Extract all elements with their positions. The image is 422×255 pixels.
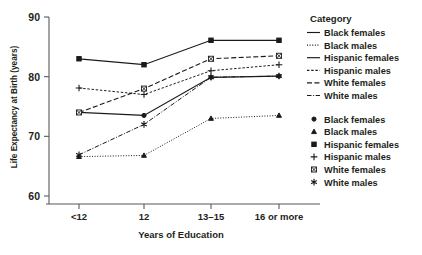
legend-line-label: White males [324,91,378,101]
marker-square [77,57,81,61]
series-path [79,40,279,64]
marker-square [277,38,281,42]
x-axis-title: Years of Education [138,229,224,240]
plus-marker [76,85,83,92]
marker-triangle [277,113,282,117]
plus-marker [311,154,318,161]
x-tick-label: 13–15 [198,211,225,222]
legend-line-label: Black females [324,28,385,38]
x-tick-label: 12 [139,211,150,222]
legend-marker-label: Black females [324,115,385,125]
marker-circle [312,117,316,121]
series-white-males [76,73,282,158]
triangle-marker [277,113,282,117]
y-tick-label: 70 [28,130,40,142]
plus-marker [276,61,283,68]
marker-plus [208,67,215,74]
series-path [79,76,279,155]
circle-marker [142,113,146,117]
marker-boxed-x [276,53,281,58]
y-tick-label: 80 [28,71,40,83]
marker-square [209,38,213,42]
marker-plus [311,154,318,161]
marker-triangle [209,116,214,120]
square-marker [277,38,281,42]
square-marker [142,63,146,67]
series-group [76,38,283,158]
legend-marker-label: Black males [324,127,377,137]
marker-boxed-x [76,110,81,115]
line-chart: 90807060<121213–1516 or moreYears of Edu… [0,0,422,255]
legend-marker-label: Hispanic females [324,140,399,150]
marker-asterisk [311,179,317,186]
legend-line-label: Hispanic males [324,66,391,76]
y-tick-label: 60 [28,190,40,202]
chart-canvas: 90807060<121213–1516 or moreYears of Edu… [0,0,422,255]
x-tick-label: <12 [71,211,87,222]
marker-boxed-x [141,86,146,91]
marker-square [142,63,146,67]
series-black-females [77,74,281,118]
plus-marker [208,67,215,74]
marker-plus [76,85,83,92]
asterisk-marker [311,179,317,186]
series-black-males [77,113,282,159]
series-path [79,56,279,113]
legend-marker-label: White females [324,165,386,175]
series-white-females [76,53,281,115]
series-path [79,115,279,156]
plus-marker [141,91,148,98]
legend-marker-label: White males [324,178,378,188]
legend-line-label: Hispanic females [324,53,399,63]
square-marker [209,38,213,42]
square-marker [312,142,316,146]
asterisk-marker [141,121,147,128]
marker-triangle [142,153,147,157]
legend-marker-label: Hispanic males [324,152,391,162]
y-tick-label: 90 [28,11,40,23]
marker-boxed-x [311,167,316,172]
marker-triangle [312,129,317,133]
legend-line-label: Black males [324,41,377,51]
legend-title: Category [310,13,352,24]
x-tick-label: 16 or more [255,211,304,222]
marker-plus [141,91,148,98]
marker-plus [276,61,283,68]
legend: CategoryBlack femalesBlack malesHispanic… [307,13,399,188]
marker-square [312,142,316,146]
series-hispanic-males [76,61,283,97]
circle-marker [312,117,316,121]
square-marker [77,57,81,61]
y-axis-title: Life Expectancy at Birth (years) [10,46,19,169]
legend-line-label: White females [324,78,386,88]
series-hispanic-females [77,38,281,67]
marker-asterisk [141,121,147,128]
series-path [79,65,279,95]
marker-boxed-x [208,56,213,61]
triangle-marker [209,116,214,120]
marker-circle [142,113,146,117]
triangle-marker [312,129,317,133]
triangle-marker [142,153,147,157]
